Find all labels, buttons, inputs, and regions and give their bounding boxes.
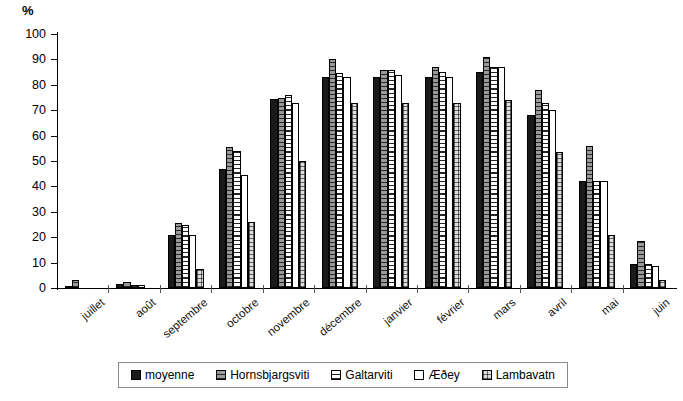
bar [116, 284, 123, 288]
y-axis-tick-label: 80 [0, 79, 46, 91]
bar [329, 59, 336, 288]
bar [439, 72, 446, 288]
x-axis-label: avril [545, 296, 569, 319]
bar [608, 235, 615, 288]
y-axis-tick-label: 40 [0, 180, 46, 192]
bar [402, 103, 409, 288]
bar [630, 264, 637, 288]
bar [483, 57, 490, 288]
bar [123, 282, 130, 288]
bar [637, 241, 644, 288]
bar [446, 77, 453, 288]
bar [556, 152, 563, 288]
x-axis-label: septembre [160, 296, 209, 340]
bar [226, 147, 233, 288]
bar [65, 286, 72, 288]
legend-item[interactable]: Lambavatn [482, 368, 555, 382]
x-axis-label: juillet [79, 296, 107, 322]
bar [535, 90, 542, 288]
legend-label: Æðey [428, 368, 459, 382]
legend-swatch-icon [331, 370, 341, 380]
y-axis-tick-label: 100 [0, 28, 46, 40]
bar-chart: % 1009080706050403020100 juilletaoûtsept… [0, 0, 683, 401]
bar [527, 115, 534, 288]
bar [579, 181, 586, 288]
y-axis-tick-label: 60 [0, 130, 46, 142]
legend-item[interactable]: moyenne [131, 368, 194, 382]
legend-label: moyenne [145, 368, 194, 382]
bar [659, 280, 666, 288]
x-axis-label: décembre [317, 296, 364, 338]
bar [652, 266, 659, 288]
x-axis-label: juin [651, 296, 672, 317]
bar [175, 223, 182, 288]
legend-swatch-icon [216, 370, 226, 380]
legend-label: Hornsbjargsviti [230, 368, 309, 382]
legend-swatch-icon [131, 370, 141, 380]
x-axis-label: février [434, 296, 466, 326]
chart-legend: moyenneHornsbjargsvitiGaltarvitiÆðeyLamb… [118, 362, 568, 388]
bar [168, 235, 175, 288]
bar [645, 264, 652, 288]
bar [395, 75, 402, 288]
legend-item[interactable]: Æðey [414, 368, 459, 382]
bar [270, 99, 277, 288]
bar [453, 103, 460, 288]
x-axis-label: mars [490, 296, 517, 322]
y-axis-tick [51, 288, 57, 289]
bar [343, 77, 350, 288]
legend-label: Galtarviti [345, 368, 392, 382]
y-axis-tick-label: 20 [0, 231, 46, 243]
bar [351, 103, 358, 288]
bar [322, 77, 329, 288]
bar [196, 269, 203, 288]
x-axis-label: novembre [265, 296, 312, 338]
legend-swatch-icon [414, 370, 424, 380]
x-axis-label: mai [599, 296, 621, 317]
bar [490, 67, 497, 288]
bar [505, 100, 512, 288]
bar [299, 161, 306, 288]
legend-label: Lambavatn [496, 368, 555, 382]
bar [425, 77, 432, 288]
bar [593, 181, 600, 288]
legend-swatch-icon [482, 370, 492, 380]
bar [131, 285, 138, 288]
bar [336, 73, 343, 288]
bar [600, 181, 607, 288]
x-axis-label: octobre [224, 296, 261, 330]
y-axis-tick-label: 30 [0, 206, 46, 218]
bar [388, 70, 395, 288]
plot-area [57, 34, 674, 288]
bar [278, 98, 285, 289]
bar [292, 103, 299, 288]
bar [586, 146, 593, 288]
y-axis-tick-label: 50 [0, 155, 46, 167]
y-axis-tick-label: 70 [0, 104, 46, 116]
x-axis-line [57, 288, 677, 289]
bar [549, 110, 556, 288]
y-axis-tick-label: 10 [0, 257, 46, 269]
bar [241, 175, 248, 288]
x-axis-label: janvier [381, 296, 415, 327]
bar [219, 169, 226, 288]
legend-item[interactable]: Galtarviti [331, 368, 392, 382]
bar [373, 77, 380, 288]
x-axis-label: août [133, 296, 158, 320]
bar [285, 95, 292, 288]
bar [72, 280, 79, 288]
bar [248, 222, 255, 288]
bar [542, 103, 549, 288]
bar [138, 285, 145, 288]
y-axis-tick-label: 0 [0, 282, 46, 294]
bar [182, 225, 189, 289]
bar [476, 72, 483, 288]
legend-item[interactable]: Hornsbjargsviti [216, 368, 309, 382]
bar [189, 235, 196, 288]
bar [432, 67, 439, 288]
bar [498, 67, 505, 288]
bar [380, 70, 387, 288]
bar [233, 151, 240, 288]
y-axis-tick-label: 90 [0, 53, 46, 65]
y-axis-unit-label: % [22, 3, 34, 18]
